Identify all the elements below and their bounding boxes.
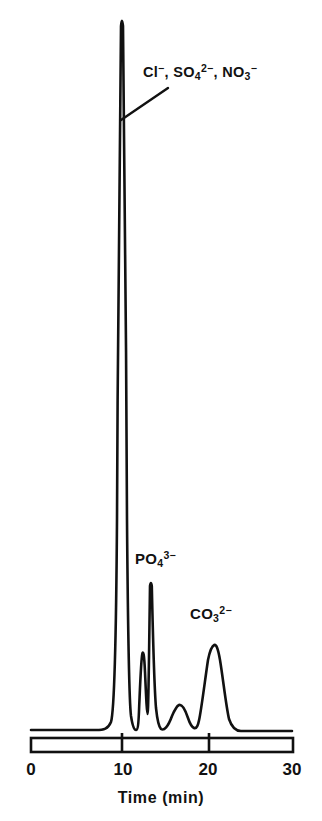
species-sulfate: SO42−: [173, 64, 213, 80]
chloride-symbol: Cl: [143, 64, 158, 80]
species-nitrate: NO3−: [222, 64, 257, 80]
x-tick-label-30: 30: [272, 760, 312, 780]
sulfate-charge: 2−: [201, 62, 214, 74]
peak-label-carbonate: CO32−: [190, 604, 232, 624]
peak-label-main-anions: Cl−, SO42−, NO3−: [143, 62, 257, 82]
phosphate-symbol: PO: [135, 550, 157, 567]
main-peak-leader-line: [121, 88, 168, 120]
sulfate-symbol: SO: [173, 64, 195, 80]
main-peak-leader-line-group: [121, 88, 168, 120]
carbonate-symbol: CO: [190, 605, 213, 622]
nitrate-symbol: NO: [222, 64, 244, 80]
carbonate-charge: 2−: [219, 604, 232, 616]
nitrate-charge: −: [251, 62, 257, 74]
chromatogram-trace-group: [31, 21, 292, 731]
chromatogram-plot: [0, 0, 322, 821]
x-axis-group: [31, 733, 293, 752]
species-chloride: Cl−: [143, 64, 165, 80]
x-tick-label-0: 0: [11, 760, 51, 780]
x-axis-bar: [31, 738, 293, 752]
phosphate-charge: 3−: [163, 549, 176, 561]
chromatogram-figure: Cl−, SO42−, NO3− PO43− CO32− 0 10 20 30 …: [0, 0, 322, 821]
chromatogram-trace: [31, 21, 292, 731]
separator-2: ,: [214, 64, 223, 80]
x-tick-label-10: 10: [103, 760, 143, 780]
peak-label-phosphate: PO43−: [135, 549, 176, 569]
separator-1: ,: [165, 64, 174, 80]
x-tick-label-20: 20: [188, 760, 228, 780]
x-axis-title: Time (min): [0, 789, 322, 807]
